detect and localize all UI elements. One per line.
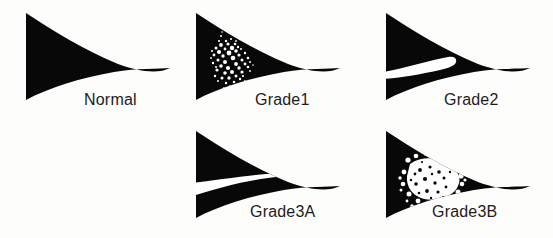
- panel-label-grade3a: Grade3A: [250, 204, 315, 220]
- meniscus-body-shape: [26, 13, 170, 100]
- panel-label-normal: Normal: [84, 92, 137, 108]
- panel-normal: Normal: [22, 8, 174, 118]
- panel-grade1: Grade1: [192, 8, 344, 118]
- panel-label-grade3b: Grade3B: [432, 204, 497, 220]
- meniscus-body-shape: [386, 13, 530, 100]
- panel-label-grade1: Grade1: [255, 92, 310, 108]
- panel-grade3a: Grade3A: [192, 126, 344, 236]
- meniscus-grading-figure: Normal: [0, 0, 553, 238]
- meniscus-body-shape: [196, 13, 340, 100]
- panel-grade3b: Grade3B: [382, 126, 534, 236]
- panel-label-grade2: Grade2: [444, 92, 499, 108]
- grade3b-lesion-core: [407, 158, 460, 199]
- panel-grade2: Grade2: [382, 8, 534, 118]
